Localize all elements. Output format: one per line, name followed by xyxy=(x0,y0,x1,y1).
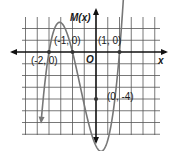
point-label-neg2: (-2, 0) xyxy=(31,56,58,66)
x-axis-label: x xyxy=(158,56,164,66)
point-label-1: (1, 0) xyxy=(98,36,121,46)
y-axis-label: M(x) xyxy=(70,13,91,23)
point-label-neg1: (-1, 0) xyxy=(54,36,81,46)
point-label-min: (0, -4) xyxy=(107,92,134,102)
origin-label: O xyxy=(86,55,94,65)
